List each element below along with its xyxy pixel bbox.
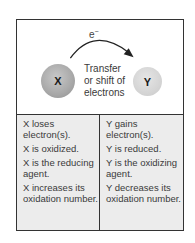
donor-fact: X increases its oxidation number. bbox=[23, 182, 99, 204]
comparison-table: X loses electron(s). X is oxidized. X is… bbox=[17, 115, 183, 230]
acceptor-fact: Y is the oxidizing agent. bbox=[106, 157, 183, 179]
acceptor-fact: Y decreases its oxidation number. bbox=[106, 182, 183, 204]
transfer-panel: e− X Transfer or shift of electrons Y bbox=[17, 20, 183, 115]
acceptor-fact: Y is reduced. bbox=[106, 143, 183, 154]
transfer-caption: Transfer or shift of electrons bbox=[84, 63, 125, 99]
acceptor-fact: Y gains electron(s). bbox=[106, 118, 183, 140]
donor-fact: X loses electron(s). bbox=[23, 118, 99, 140]
electron-label: e− bbox=[89, 28, 99, 40]
acceptor-column: Y gains electron(s). Y is reduced. Y is … bbox=[100, 115, 183, 230]
donor-fact: X is the reducing agent. bbox=[23, 157, 99, 179]
donor-column: X loses electron(s). X is oxidized. X is… bbox=[17, 115, 100, 230]
donor-fact: X is oxidized. bbox=[23, 143, 99, 154]
donor-x-circle: X bbox=[41, 64, 75, 98]
acceptor-y-circle: Y bbox=[133, 67, 162, 96]
diagram-frame: e− X Transfer or shift of electrons Y X … bbox=[16, 19, 184, 231]
